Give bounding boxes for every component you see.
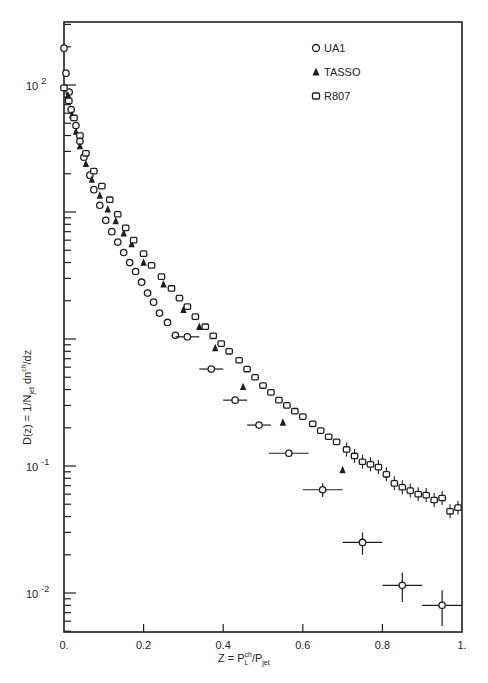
- filled-triangle-marker: [313, 68, 320, 76]
- series-ua1-points: [61, 45, 462, 626]
- open-square-marker: [99, 183, 105, 188]
- open-square-marker: [192, 314, 198, 319]
- open-square-marker: [244, 366, 250, 371]
- y-tick-label: 10-2: [26, 584, 49, 600]
- open-square-marker: [148, 263, 154, 268]
- open-square-marker: [455, 505, 461, 510]
- open-square-marker: [447, 509, 453, 514]
- open-square-marker: [61, 85, 67, 90]
- filled-triangle-marker: [140, 258, 146, 265]
- open-square-marker: [423, 492, 429, 497]
- filled-triangle-marker: [339, 466, 345, 473]
- open-circle-marker: [439, 602, 445, 608]
- x-tick-label: 0.2: [136, 639, 151, 651]
- open-square-marker: [431, 497, 437, 502]
- y-tick-label: 10-1: [26, 457, 49, 473]
- filled-triangle-marker: [113, 217, 119, 224]
- open-circle-marker: [63, 70, 69, 76]
- open-square-marker: [71, 115, 77, 120]
- open-square-marker: [252, 375, 258, 380]
- open-square-marker: [66, 98, 72, 103]
- legend-label: R807: [324, 90, 350, 102]
- open-circle-marker: [208, 366, 214, 372]
- chart-figure: 10210-110-2 0.0.20.40.60.81. UA1TASSOR80…: [0, 0, 488, 683]
- open-square-marker: [122, 225, 128, 230]
- open-square-marker: [77, 133, 83, 138]
- series-r807-points: [61, 85, 461, 518]
- x-tick-label: 1.: [457, 639, 466, 651]
- open-square-marker: [343, 447, 349, 452]
- open-square-marker: [313, 93, 320, 99]
- open-square-marker: [318, 428, 324, 433]
- filled-triangle-marker: [280, 418, 286, 425]
- open-square-marker: [310, 421, 316, 426]
- open-square-marker: [202, 324, 208, 329]
- open-square-marker: [351, 453, 357, 458]
- open-circle-marker: [359, 539, 365, 545]
- open-square-marker: [415, 491, 421, 496]
- open-circle-marker: [103, 217, 109, 223]
- open-square-marker: [107, 197, 113, 202]
- open-square-marker: [391, 481, 397, 486]
- open-circle-marker: [172, 332, 178, 338]
- open-square-marker: [176, 295, 182, 300]
- y-axis-title: D(z) = 1/Njet dnch/dz: [20, 350, 36, 445]
- x-axis-ticks: 0.0.20.40.60.81.: [59, 624, 466, 651]
- open-circle-marker: [97, 202, 103, 208]
- open-square-marker: [407, 488, 413, 493]
- open-square-marker: [325, 434, 331, 439]
- filled-triangle-marker: [160, 280, 166, 287]
- x-tick-label: 0.6: [295, 639, 310, 651]
- open-circle-marker: [164, 319, 170, 325]
- open-square-marker: [83, 151, 89, 156]
- open-square-marker: [218, 341, 224, 346]
- open-square-marker: [184, 304, 190, 309]
- filled-triangle-marker: [97, 191, 103, 198]
- open-circle-marker: [399, 582, 405, 588]
- open-square-marker: [300, 414, 306, 419]
- open-circle-marker: [138, 279, 144, 285]
- open-circle-marker: [184, 334, 190, 340]
- open-circle-marker: [115, 239, 121, 245]
- x-tick-label: 0.8: [375, 639, 390, 651]
- open-square-marker: [236, 358, 242, 363]
- y-axis-ticks: 10210-110-2: [26, 24, 76, 631]
- open-circle-marker: [320, 487, 326, 493]
- open-circle-marker: [144, 290, 150, 296]
- legend-item-ua1: UA1: [313, 42, 346, 54]
- legend-label: TASSO: [324, 66, 361, 78]
- open-circle-marker: [286, 450, 292, 456]
- open-square-marker: [130, 237, 136, 242]
- open-circle-marker: [126, 259, 132, 265]
- open-square-marker: [226, 349, 232, 354]
- x-tick-label: 0.4: [216, 639, 231, 651]
- open-circle-marker: [109, 228, 115, 234]
- legend-label: UA1: [324, 42, 345, 54]
- plot-frame: [64, 22, 462, 632]
- y-tick-label: 102: [26, 76, 46, 92]
- open-square-marker: [284, 403, 290, 408]
- open-circle-marker: [91, 186, 97, 192]
- open-square-marker: [140, 251, 146, 256]
- open-circle-marker: [256, 422, 262, 428]
- open-circle-marker: [156, 310, 162, 316]
- open-square-marker: [359, 459, 365, 464]
- legend-item-tasso: TASSO: [313, 66, 361, 78]
- open-square-marker: [91, 168, 97, 173]
- open-square-marker: [210, 333, 216, 338]
- open-circle-marker: [121, 249, 127, 255]
- open-circle-marker: [232, 397, 238, 403]
- legend: UA1TASSOR807: [313, 42, 361, 102]
- open-square-marker: [375, 464, 381, 469]
- open-square-marker: [268, 390, 274, 395]
- legend-item-r807: R807: [313, 90, 351, 102]
- open-square-marker: [383, 472, 389, 477]
- open-square-marker: [158, 274, 164, 279]
- open-circle-marker: [150, 299, 156, 305]
- open-square-marker: [115, 212, 121, 217]
- x-tick-label: 0.: [59, 639, 68, 651]
- filled-triangle-marker: [105, 205, 111, 212]
- open-square-marker: [367, 462, 373, 467]
- filled-triangle-marker: [240, 383, 246, 390]
- plot-area-border: [64, 22, 462, 632]
